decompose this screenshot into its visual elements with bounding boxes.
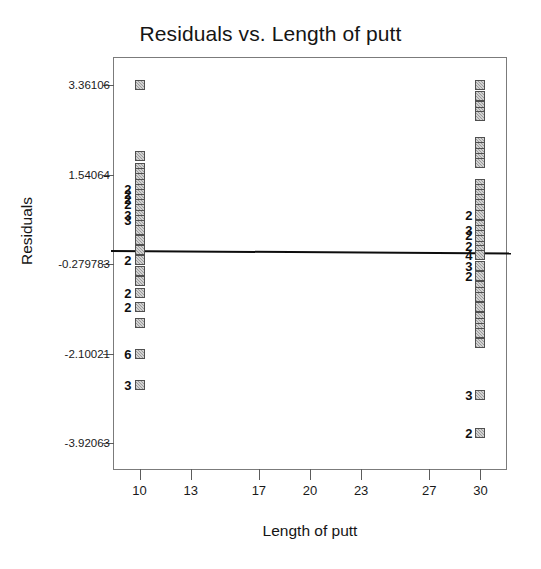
x-tick-label: 23 (354, 483, 368, 498)
x-tick-mark-5 (429, 469, 430, 480)
data-point-marker (475, 390, 485, 400)
x-tick-label: 10 (132, 483, 146, 498)
x-tick-mark-4 (361, 469, 362, 480)
data-point-marker (135, 80, 145, 90)
data-point-marker (475, 271, 485, 281)
chart-figure: Residuals vs. Length of putt Residuals 2… (0, 0, 541, 569)
data-point-marker (475, 91, 485, 101)
chart-title: Residuals vs. Length of putt (0, 22, 541, 46)
data-point-marker (135, 245, 145, 255)
data-point-marker (475, 111, 485, 121)
data-point-marker (475, 158, 485, 168)
data-point-marker (475, 210, 485, 220)
data-point-marker (475, 428, 485, 438)
x-tick-label: 13 (183, 483, 197, 498)
data-point-marker (475, 302, 485, 312)
x-tick-label: 27 (422, 483, 436, 498)
x-tick-label: 20 (303, 483, 317, 498)
data-point-marker (135, 288, 145, 298)
plot-area: 22223322263232243232 3.361061.54064-0.27… (113, 57, 507, 470)
x-tick-mark-0 (140, 469, 141, 480)
data-point-marker (135, 380, 145, 390)
x-tick-label: 17 (252, 483, 266, 498)
plot-inner: 22223322263232243232 (114, 58, 506, 469)
point-count-label: 3 (124, 212, 131, 227)
data-point-marker (475, 250, 485, 260)
y-tick-label: -2.10021 (65, 348, 110, 360)
x-tick-mark-2 (259, 469, 260, 480)
x-tick-mark-6 (480, 469, 481, 480)
data-point-marker (475, 80, 485, 90)
point-count-label: 2 (465, 269, 472, 284)
point-count-label: 3 (465, 387, 472, 402)
x-tick-mark-3 (310, 469, 311, 480)
data-point-marker (135, 266, 145, 276)
data-point-marker (475, 338, 485, 348)
data-point-marker (135, 225, 145, 235)
y-tick-label: 1.54064 (68, 169, 110, 181)
y-tick-label: 3.36106 (68, 79, 110, 91)
point-count-label: 2 (465, 207, 472, 222)
y-tick-label: -0.279783 (58, 258, 110, 270)
point-count-label: 2 (124, 285, 131, 300)
data-point-marker (135, 255, 145, 265)
data-point-marker (135, 235, 145, 245)
point-count-label: 3 (124, 377, 131, 392)
point-count-label: 2 (124, 300, 131, 315)
data-point-marker (135, 302, 145, 312)
data-point-marker (135, 276, 145, 286)
data-point-marker (135, 349, 145, 359)
zero-reference-line (111, 250, 511, 254)
x-tick-mark-1 (191, 469, 192, 480)
x-tick-label: 30 (473, 483, 487, 498)
data-point-marker (475, 261, 485, 271)
data-point-marker (475, 292, 485, 302)
point-count-label: 6 (124, 346, 131, 361)
x-axis-title: Length of putt (113, 522, 507, 540)
point-count-label: 2 (124, 253, 131, 268)
data-point-marker (135, 151, 145, 161)
data-point-marker (475, 328, 485, 338)
y-axis-title: Residuals (18, 171, 36, 291)
y-tick-label: -3.92063 (65, 437, 110, 449)
data-point-marker (135, 318, 145, 328)
point-count-label: 2 (465, 425, 472, 440)
